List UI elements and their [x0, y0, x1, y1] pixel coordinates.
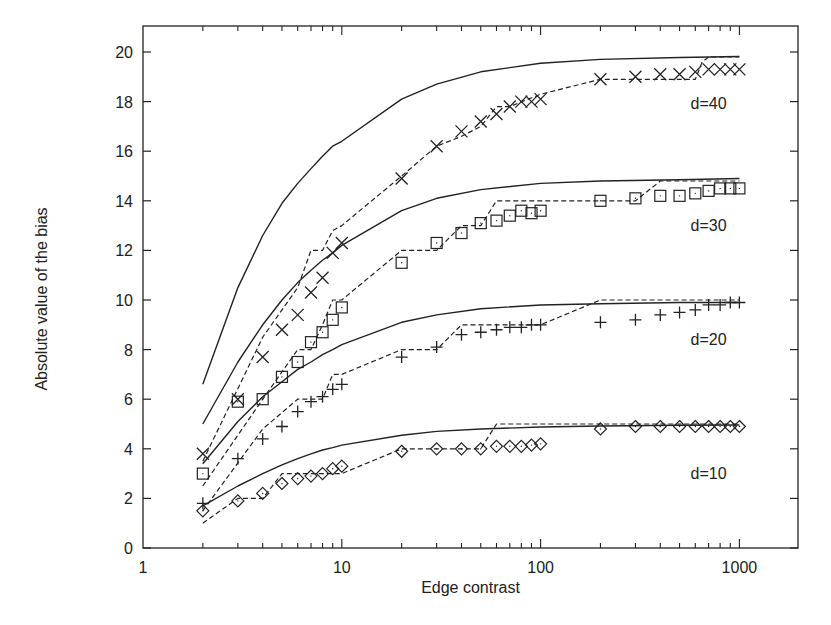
square-marker-dot: [496, 220, 497, 221]
square-marker-dot: [695, 193, 696, 194]
square-marker-dot: [660, 195, 661, 196]
diamond-marker-dot: [332, 468, 333, 469]
square-marker-dot: [401, 262, 402, 263]
square-marker-dot: [322, 332, 323, 333]
square-marker-dot: [679, 195, 680, 196]
diamond-marker-dot: [202, 510, 203, 511]
square-marker-dot: [730, 188, 731, 189]
square-marker-dot: [237, 401, 238, 402]
diamond-marker-dot: [480, 448, 481, 449]
diamond-marker-dot: [540, 443, 541, 444]
y-axis-title: Absolute value of the bias: [33, 207, 50, 390]
diamond-marker-dot: [521, 446, 522, 447]
bias-vs-contrast-chart: 024681012141618201101001000Edge contrast…: [0, 0, 831, 625]
diamond-marker-dot: [461, 448, 462, 449]
diamond-marker-dot: [660, 426, 661, 427]
x-tick-label: 1: [139, 559, 148, 576]
square-marker-dot: [739, 188, 740, 189]
y-tick-label: 6: [124, 391, 133, 408]
diamond-marker-dot: [531, 444, 532, 445]
x-axis-title: Edge contrast: [421, 579, 520, 596]
square-marker-dot: [297, 361, 298, 362]
diamond-marker-dot: [635, 426, 636, 427]
diamond-marker-dot: [708, 426, 709, 427]
curve-label-d30: d=30: [691, 217, 727, 234]
y-tick-label: 8: [124, 342, 133, 359]
square-marker-dot: [262, 399, 263, 400]
x-tick-label: 10: [333, 559, 351, 576]
curve-label-d40: d=40: [691, 95, 727, 112]
y-tick-label: 2: [124, 490, 133, 507]
square-marker-dot: [708, 190, 709, 191]
diamond-marker-dot: [262, 493, 263, 494]
y-tick-label: 12: [115, 242, 133, 259]
square-marker-dot: [540, 210, 541, 211]
diamond-marker-dot: [679, 426, 680, 427]
x-tick-label: 1000: [722, 559, 758, 576]
diamond-marker-dot: [730, 426, 731, 427]
diamond-marker-dot: [237, 500, 238, 501]
y-tick-label: 20: [115, 44, 133, 61]
square-marker-dot: [341, 307, 342, 308]
square-marker-dot: [719, 188, 720, 189]
y-tick-label: 14: [115, 193, 133, 210]
diamond-marker-dot: [281, 483, 282, 484]
y-tick-label: 16: [115, 143, 133, 160]
y-tick-label: 18: [115, 94, 133, 111]
diamond-marker-dot: [341, 465, 342, 466]
y-tick-label: 0: [124, 540, 133, 557]
square-marker-dot: [635, 198, 636, 199]
diamond-marker-dot: [496, 446, 497, 447]
square-marker-dot: [531, 213, 532, 214]
diamond-marker-dot: [436, 448, 437, 449]
y-tick-label: 4: [124, 441, 133, 458]
diamond-marker-dot: [322, 473, 323, 474]
square-marker-dot: [281, 376, 282, 377]
diamond-marker-dot: [310, 475, 311, 476]
diamond-marker-dot: [739, 426, 740, 427]
diamond-marker-dot: [401, 451, 402, 452]
curve-label-d10: d=10: [691, 465, 727, 482]
diamond-marker-dot: [297, 478, 298, 479]
square-marker-dot: [521, 210, 522, 211]
square-marker-dot: [202, 473, 203, 474]
square-marker-dot: [480, 222, 481, 223]
square-marker-dot: [461, 232, 462, 233]
square-marker-dot: [310, 341, 311, 342]
diamond-marker-dot: [509, 446, 510, 447]
diamond-marker-dot: [695, 426, 696, 427]
y-tick-label: 10: [115, 292, 133, 309]
curve-label-d20: d=20: [691, 331, 727, 348]
square-marker-dot: [332, 319, 333, 320]
square-marker-dot: [436, 242, 437, 243]
diamond-marker-dot: [600, 428, 601, 429]
square-marker-dot: [600, 200, 601, 201]
square-marker-dot: [509, 215, 510, 216]
x-tick-label: 100: [527, 559, 554, 576]
diamond-marker-dot: [719, 426, 720, 427]
